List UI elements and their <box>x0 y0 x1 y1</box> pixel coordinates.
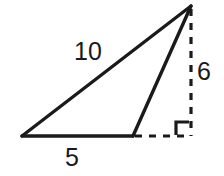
geometry-figure: 10 5 6 <box>0 0 224 176</box>
height-length-label: 6 <box>197 59 211 84</box>
base-length-label: 5 <box>65 145 79 170</box>
hypotenuse-side-line <box>22 6 191 136</box>
hypotenuse-length-label: 10 <box>74 39 102 64</box>
geometry-canvas <box>0 0 224 176</box>
right-side-line <box>133 6 191 136</box>
right-angle-mark-icon <box>176 122 189 135</box>
